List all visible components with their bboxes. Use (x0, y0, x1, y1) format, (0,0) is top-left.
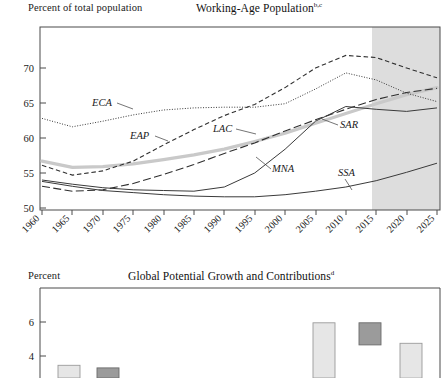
top-xtick-1990: 1990 (201, 213, 223, 235)
working-age-population-panel: Percent of total population Working-Age … (0, 0, 448, 248)
forecast-shaded-region (372, 27, 440, 210)
bar-b1 (58, 365, 80, 378)
top-xtick-1985: 1985 (171, 213, 193, 235)
leader-ssa (345, 179, 352, 190)
top-xtick-1975: 1975 (110, 213, 132, 235)
top-series-annotations: ECA EAP LAC SAR MNA SSA (91, 97, 359, 190)
series-label-mna: MNA (271, 163, 295, 174)
series-label-ssa: SSA (338, 167, 356, 178)
bar-b7 (359, 323, 381, 345)
top-xtick-2025: 2025 (414, 213, 436, 235)
series-label-lac: LAC (212, 123, 233, 134)
top-x-axis-ticks (42, 210, 437, 215)
top-xtick-1995: 1995 (232, 213, 254, 235)
series-label-eca: ECA (91, 97, 112, 108)
leader-lac (236, 129, 256, 134)
top-ytick-55: 55 (24, 168, 35, 179)
top-ytick-70: 70 (24, 63, 35, 74)
working-age-population-chart: 70 65 60 55 50 (0, 0, 448, 248)
top-xtick-2015: 2015 (353, 213, 375, 235)
bar-b6 (313, 323, 335, 378)
bottom-ytick-4: 4 (29, 351, 35, 362)
global-potential-growth-panel: Percent Global Potential Growth and Cont… (0, 248, 448, 378)
top-xtick-1965: 1965 (49, 213, 71, 235)
global-potential-growth-chart: 6 4 (0, 248, 448, 378)
bottom-y-axis: 6 4 (29, 317, 46, 362)
top-ytick-60: 60 (24, 133, 35, 144)
top-xtick-2005: 2005 (293, 213, 315, 235)
top-ytick-50: 50 (24, 203, 35, 214)
figure-root: Percent of total population Working-Age … (0, 0, 448, 378)
top-xtick-1970: 1970 (80, 213, 102, 235)
leader-mna (256, 157, 271, 169)
bottom-bars-group (58, 323, 422, 378)
top-xtick-1960: 1960 (19, 213, 41, 235)
top-xtick-1980: 1980 (141, 213, 163, 235)
bar-b2 (97, 368, 119, 378)
top-y-axis: 70 65 60 55 50 (24, 63, 47, 214)
series-label-eap: EAP (129, 130, 150, 141)
top-xtick-2000: 2000 (262, 213, 284, 235)
bottom-ytick-6: 6 (29, 317, 34, 328)
top-ytick-65: 65 (24, 98, 35, 109)
top-x-axis-labels: 1960 1965 1970 1975 1980 1985 1990 1995 … (19, 213, 436, 235)
series-label-sar: SAR (340, 119, 359, 130)
bar-b8 (400, 343, 422, 378)
leader-eap (155, 136, 168, 141)
top-xtick-2020: 2020 (384, 213, 406, 235)
leader-eca (117, 103, 133, 109)
top-xtick-2010: 2010 (323, 213, 345, 235)
